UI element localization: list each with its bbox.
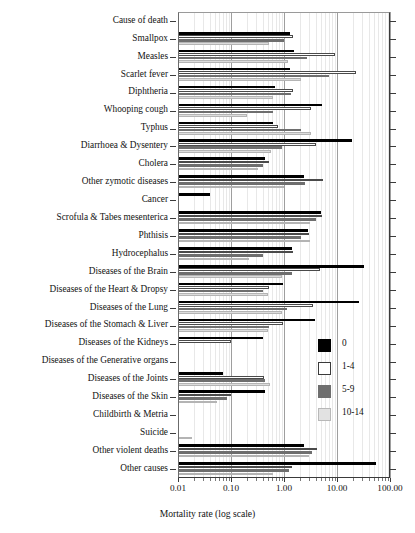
bar-5-9-3 [178,75,329,78]
x-tick-minor [316,478,317,481]
bar-1-4-3 [178,71,356,74]
category-label: Diseases of the Joints [88,374,168,384]
bar-1-4-8 [178,161,269,164]
bar-0-8 [178,157,265,160]
bar-1-4-1 [178,35,293,38]
gridline-minor [282,12,283,478]
white-outlined-swatch [318,362,331,375]
bar-10-14-7 [178,150,271,153]
category-label: Diseases of the Kidneys [78,338,168,348]
bar-5-9-2 [178,57,307,60]
bar-10-14-21 [178,401,217,404]
category-tick [170,397,176,398]
gridline-minor [229,12,230,478]
category-label: Diseases of the Lung [90,303,168,313]
category-tick [170,75,176,76]
category-tick-right [390,39,396,40]
gridline-minor [374,12,375,478]
category-tick-right [390,362,396,363]
category-tick [170,146,176,147]
bar-1-4-21 [178,394,231,397]
bar-1-4-9 [178,179,323,182]
gridline-minor [272,12,273,478]
bar-0-6 [178,122,273,125]
x-tick-minor [378,478,379,481]
x-tick-minor [226,478,227,481]
gridline-minor [194,12,195,478]
legend-label: 1-4 [342,361,354,371]
x-tick-minor [276,478,277,481]
bar-1-4-14 [178,268,320,271]
bar-5-9-25 [178,469,289,472]
category-tick-right [390,21,396,22]
gridline-minor [219,12,220,478]
bar-5-9-11 [178,218,316,221]
category-tick-right [390,111,396,112]
category-tick [170,57,176,58]
x-axis-title: Mortality rate (log scale) [0,508,415,519]
x-tick-minor [388,478,389,481]
bar-5-9-4 [178,93,291,96]
category-tick [170,362,176,363]
x-tick-major [178,478,179,482]
x-tick-minor [300,478,301,481]
category-label: Phthisis [139,231,168,241]
x-tick-label: 100.00 [377,483,402,493]
category-tick-right [390,308,396,309]
gridline-minor [256,12,257,478]
bar-1-4-7 [178,143,316,146]
x-tick-minor [335,478,336,481]
x-tick-minor [369,478,370,481]
category-label: Diseases of the Stomach & Liver [45,320,168,330]
x-tick-minor [272,478,273,481]
gridline-major [284,12,285,478]
x-tick-minor [268,478,269,481]
x-tick-minor [215,478,216,481]
bar-1-4-2 [178,53,335,56]
bar-5-9-24 [178,451,312,454]
category-label: Other violent deaths [93,446,168,456]
category-tick-right [390,75,396,76]
bar-0-7 [178,139,352,142]
category-label: Diphtheria [128,87,168,97]
category-tick-right [390,415,396,416]
gridline-major [178,12,179,478]
bar-10-14-24 [178,455,309,458]
bar-10-14-6 [178,132,311,135]
bar-5-9-1 [178,39,284,42]
bar-5-9-12 [178,236,301,239]
category-label: Childbirth & Metria [93,410,168,420]
bar-10-14-12 [178,240,310,243]
x-tick-label: 0.01 [170,483,186,493]
x-tick-minor [362,478,363,481]
bar-0-1 [178,32,290,35]
category-label: Diseases of the Brain [89,267,168,277]
x-tick-label: 10.00 [327,483,348,493]
x-tick-minor [329,478,330,481]
legend-label: 0 [342,338,347,348]
category-tick-right [390,236,396,237]
category-tick [170,200,176,201]
gridline-minor [316,12,317,478]
bar-1-4-4 [178,89,293,92]
bar-5-9-17 [178,326,269,329]
category-tick [170,93,176,94]
category-label: Diseases of the Skin [92,392,168,402]
gridline-minor [382,12,383,478]
bar-10-14-9 [178,186,284,189]
x-tick-minor [279,478,280,481]
category-tick [170,379,176,380]
category-tick-right [390,379,396,380]
gridline-minor [226,12,227,478]
gridline-minor [203,12,204,478]
category-tick-right [390,433,396,434]
light-gray-swatch [318,408,331,421]
bar-1-4-24 [178,448,317,451]
bar-1-4-11 [178,215,322,218]
x-tick-minor [385,478,386,481]
bar-10-14-23 [178,437,192,440]
bar-0-2 [178,50,294,53]
category-tick-right [390,164,396,165]
x-tick-minor [194,478,195,481]
bar-1-4-20 [178,376,264,379]
